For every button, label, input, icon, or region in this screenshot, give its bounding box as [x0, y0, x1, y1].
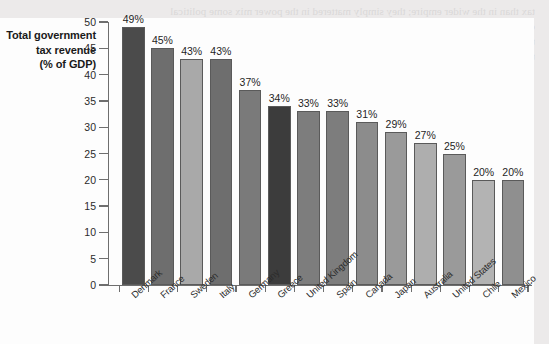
y-axis-tick-label: 20 [84, 174, 96, 186]
chart-title-line-2: tax revenue [4, 43, 96, 58]
y-axis-tick-label: 45 [84, 42, 96, 54]
y-axis-tick [99, 179, 108, 180]
y-axis-tick-label: 35 [84, 95, 96, 107]
y-axis-tick-label: 50 [84, 16, 96, 28]
bar [180, 59, 203, 285]
y-axis-tick [99, 48, 108, 49]
y-axis-tick [99, 21, 108, 22]
y-axis-tick-label: 0 [90, 279, 96, 291]
bar-value-label: 20% [473, 166, 494, 178]
bar-value-label: 43% [210, 45, 231, 57]
y-axis-tick [99, 153, 108, 154]
y-axis-tick [99, 232, 108, 233]
chart-title-line-3: (% of GDP) [4, 57, 96, 72]
chart-title: Total government tax revenue (% of GDP) [4, 28, 96, 72]
bar [122, 27, 145, 285]
bar [239, 90, 262, 285]
y-axis-tick [99, 284, 108, 285]
y-axis-tick-label: 15 [84, 200, 96, 212]
y-axis-line [108, 22, 109, 286]
y-axis-tick-label: 25 [84, 148, 96, 160]
bar [268, 106, 291, 285]
x-axis-tick [119, 285, 120, 292]
bar-value-label: 34% [269, 92, 290, 104]
y-axis-tick-label: 5 [90, 253, 96, 265]
bar [502, 180, 525, 285]
bar-value-label: 33% [327, 97, 348, 109]
bar-value-label: 31% [356, 108, 377, 120]
bar-value-label: 45% [152, 34, 173, 46]
bar [443, 154, 466, 286]
y-axis-tick-label: 40 [84, 69, 96, 81]
bar-value-label: 20% [502, 166, 523, 178]
bar-value-label: 33% [298, 97, 319, 109]
bar-value-label: 49% [123, 13, 144, 25]
bar [151, 48, 174, 285]
bar-value-label: 25% [444, 140, 465, 152]
bar-value-label: 43% [181, 45, 202, 57]
bar-value-label: 37% [240, 76, 261, 88]
bar [297, 111, 320, 285]
y-axis-tick-label: 10 [84, 226, 96, 238]
chart-title-line-1: Total government [4, 28, 96, 43]
y-axis-tick [99, 127, 108, 128]
bar [385, 132, 408, 285]
bar [210, 59, 233, 285]
chart-figure: Total government tax revenue (% of GDP) … [0, 0, 549, 344]
bar [414, 143, 437, 285]
y-axis-tick [99, 258, 108, 259]
y-axis-tick [99, 205, 108, 206]
bar-value-label: 27% [415, 129, 436, 141]
bar-value-label: 29% [386, 118, 407, 130]
y-axis-tick [99, 74, 108, 75]
bar [356, 122, 379, 285]
y-axis-tick [99, 100, 108, 101]
y-axis-tick-label: 30 [84, 121, 96, 133]
